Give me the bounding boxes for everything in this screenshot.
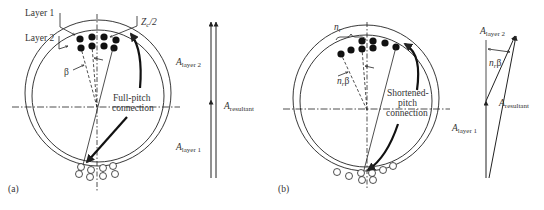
beta-label: β [64, 67, 69, 77]
layer1-leader [60, 13, 75, 35]
panel-b: nr nrβ Shortened- pitch connection (b) A… [278, 22, 529, 195]
panel-a-tag: (a) [8, 184, 19, 195]
connection-label-1: Shortened- [387, 88, 429, 98]
connection-label-1: Full-pitch [113, 93, 151, 103]
coil-side-line [83, 48, 113, 165]
connection-label-2: connection [112, 103, 154, 113]
connection-label-3: connection [386, 108, 428, 118]
layer2-label: Layer 2 [25, 33, 55, 43]
angle-arrow [488, 49, 510, 52]
full-pitch-arrow-up [131, 34, 141, 88]
b-angle-label: nrβ [489, 58, 501, 70]
b-layer1-label: Alayer 1 [451, 123, 478, 135]
a-layer2-label: Alayer 2 [175, 57, 202, 69]
a-layer1-label: Alayer 1 [175, 142, 202, 154]
winding-diagram: Layer 1 Layer 2 Zc/2 β Full-pitch connec… [0, 0, 544, 210]
phasor-diagram-b: Alayer 2 nrβ Aresultant Alayer 1 [451, 26, 529, 178]
zc-leader [110, 16, 137, 37]
phasor-diagram-a: Alayer 2 Aresultant Alayer 1 [175, 22, 254, 178]
shortened-pitch-arrow-up [405, 44, 418, 90]
nrbeta-arrow-right [365, 66, 374, 68]
panel-b-tag: (b) [278, 184, 289, 195]
nrbeta-label: nrβ [337, 76, 349, 88]
zc-label: Zc/2 [141, 17, 157, 29]
phasor-layer2 [486, 36, 515, 101]
top-conductors [337, 37, 399, 57]
beta-line-1 [81, 48, 97, 107]
layer1-label: Layer 1 [25, 8, 55, 18]
beta-arrow-left [73, 65, 84, 70]
b-layer2-label: Alayer 2 [479, 26, 506, 38]
beta-arrow-right [94, 58, 103, 60]
panel-a: Layer 1 Layer 2 Zc/2 β Full-pitch connec… [8, 8, 254, 195]
a-resultant-label: Aresultant [223, 101, 254, 113]
full-pitch-arrow-down [87, 117, 127, 162]
connection-label-2: pitch [398, 98, 417, 108]
beta-line-2 [92, 46, 97, 107]
